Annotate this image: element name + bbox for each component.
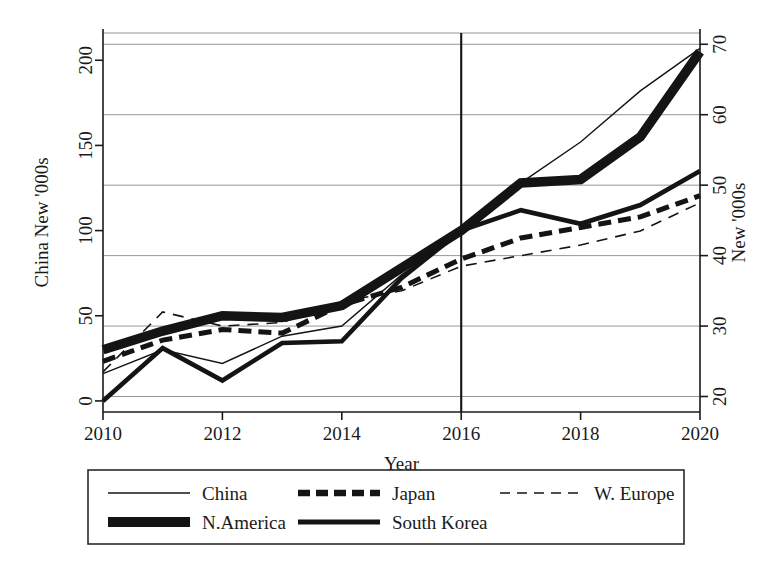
x-tick-label: 2012 — [203, 423, 241, 444]
legend-label: Japan — [392, 483, 436, 504]
y-tick-label-right: 30 — [709, 317, 730, 336]
x-tick-label: 2018 — [562, 423, 600, 444]
legend-label: South Korea — [392, 512, 488, 533]
y-axis-title-right: New '000s — [728, 183, 749, 263]
x-tick-label: 2010 — [84, 423, 122, 444]
legend: ChinaJapanW. EuropeN.AmericaSouth Korea — [88, 470, 684, 544]
y-tick-label-right: 20 — [709, 387, 730, 406]
chart-figure: 0501001502002030405060702010201220142016… — [0, 0, 771, 563]
line-chart: 0501001502002030405060702010201220142016… — [0, 0, 771, 563]
y-tick-label-left: 50 — [75, 306, 96, 325]
y-tick-label-left: 150 — [75, 131, 96, 160]
legend-box — [88, 470, 684, 544]
legend-label: China — [202, 483, 248, 504]
x-tick-label: 2020 — [681, 423, 719, 444]
legend-label: W. Europe — [594, 483, 675, 504]
y-tick-label-left: 100 — [75, 216, 96, 245]
y-tick-label-left: 200 — [75, 46, 96, 75]
y-tick-label-right: 60 — [709, 105, 730, 124]
y-axis-title-left: China New '000s — [31, 157, 52, 287]
legend-label: N.America — [202, 512, 286, 533]
y-tick-label-left: 0 — [75, 396, 96, 406]
y-tick-label-right: 70 — [709, 35, 730, 54]
x-tick-label: 2016 — [442, 423, 480, 444]
x-tick-label: 2014 — [323, 423, 362, 444]
